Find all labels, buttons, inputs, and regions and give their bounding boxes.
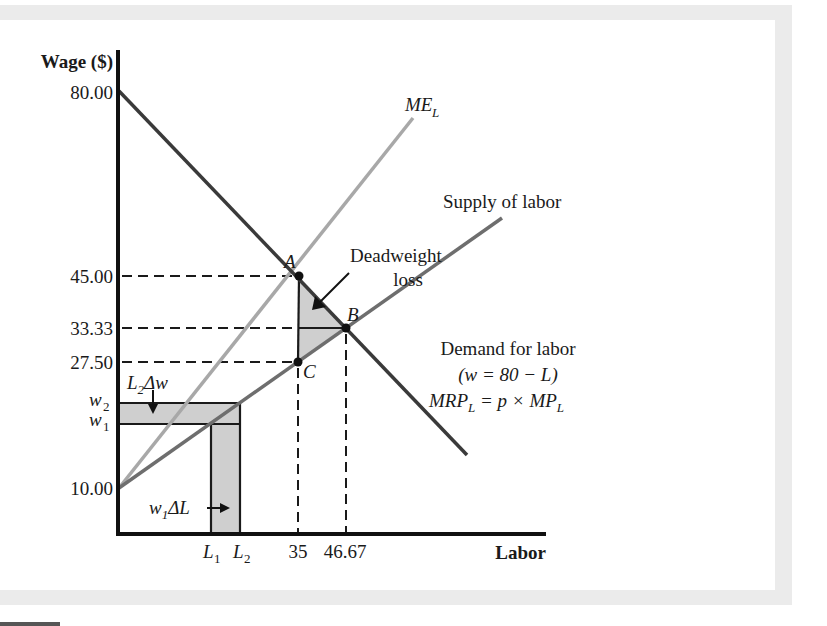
mrp-equals: = p × MP — [475, 390, 557, 411]
x-tick-35: 35 — [289, 541, 308, 562]
y-axis-label: Wage ($) — [41, 51, 113, 73]
y-tick-3333: 33.33 — [70, 318, 113, 339]
w1dl-dl: ΔL — [167, 497, 190, 518]
y-tick-w1-sub: 1 — [103, 419, 110, 434]
x-tick-l2-sub: 2 — [244, 551, 251, 566]
point-a-label: A — [282, 251, 296, 272]
dwl-label-line2: loss — [393, 269, 423, 290]
demand-label-line3: MRPL = p × MPL — [428, 390, 564, 415]
monopsony-diagram: Wage ($) 80.00 45.00 33.33 27.50 10.00 w… — [0, 0, 827, 626]
y-tick-80: 80.00 — [70, 82, 113, 103]
w1dl-w: w — [149, 497, 162, 518]
l2-delta-w-label: L2Δw — [126, 372, 168, 397]
x-tick-l1-base: L — [202, 541, 214, 562]
dwl-label-line1: Deadweight — [350, 245, 443, 266]
x-tick-l2-base: L — [232, 541, 244, 562]
line-a-c — [298, 276, 299, 362]
w1-delta-l-rect — [211, 424, 240, 533]
x-tick-l1-sub: 1 — [214, 551, 221, 566]
x-axis-label: Labor — [495, 542, 546, 563]
dwl-arrow-shaft — [318, 273, 349, 304]
mrp-sub: L — [467, 400, 475, 415]
me-curve — [119, 118, 413, 488]
point-c — [294, 358, 303, 367]
x-tick-l2: L 2 — [232, 541, 251, 566]
x-tick-l1: L 1 — [202, 541, 221, 566]
y-tick-w2-base: w — [89, 389, 102, 410]
l2dw-dw: Δw — [143, 372, 168, 393]
mp-sub: L — [556, 400, 564, 415]
y-tick-10: 10.00 — [70, 478, 113, 499]
point-a — [295, 272, 304, 281]
me-label: ME L — [404, 94, 439, 120]
y-tick-w1-base: w — [89, 409, 102, 430]
x-tick-4667: 46.67 — [324, 541, 367, 562]
supply-label: Supply of labor — [443, 191, 562, 212]
y-tick-w2-sub: 2 — [103, 399, 110, 414]
mrp-text: MRP — [428, 390, 468, 411]
point-c-label: C — [303, 361, 316, 382]
w1-delta-l-label: w1ΔL — [149, 497, 190, 522]
y-tick-2750: 27.50 — [70, 352, 113, 373]
demand-label-line1: Demand for labor — [440, 338, 576, 359]
l2dw-l: L — [126, 372, 138, 393]
me-label-base: ME — [404, 94, 433, 115]
me-label-sub: L — [431, 105, 439, 120]
demand-label: Demand for labor (w = 80 − L) MRPL = p ×… — [428, 338, 576, 415]
point-b-label: B — [347, 304, 359, 325]
y-tick-45: 45.00 — [70, 266, 113, 287]
demand-label-line2: (w = 80 − L) — [458, 364, 558, 386]
